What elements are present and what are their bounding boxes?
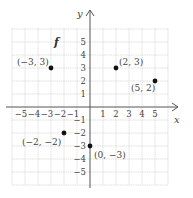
y-tick-label: −4 xyxy=(73,154,86,164)
x-tick-label: 2 xyxy=(113,109,118,119)
data-point xyxy=(62,131,67,136)
data-point xyxy=(49,66,54,71)
x-tick-labels: −5 −4 −3 −2 −1 1 2 3 4 5 xyxy=(15,109,158,119)
y-tick-label: −3 xyxy=(73,141,86,151)
point-label: (−3, 3) xyxy=(17,57,49,67)
function-label: f xyxy=(53,36,61,49)
x-tick-label: 1 xyxy=(100,109,105,119)
y-tick-label: −1 xyxy=(73,115,86,125)
point-label: (−2, −2) xyxy=(22,137,61,147)
y-tick-label: −5 xyxy=(73,167,86,177)
x-tick-label: 5 xyxy=(152,109,157,119)
y-tick-label: 4 xyxy=(81,50,86,60)
x-tick-label: 3 xyxy=(126,109,131,119)
y-tick-label: 3 xyxy=(81,63,86,73)
y-tick-label: 2 xyxy=(81,76,86,86)
y-tick-label: 5 xyxy=(81,37,86,47)
x-tick-label: −4 xyxy=(28,109,41,119)
y-tick-label: 1 xyxy=(81,89,86,99)
point-label: (2, 3) xyxy=(119,57,143,67)
data-point xyxy=(114,66,119,71)
x-tick-label: −3 xyxy=(41,109,54,119)
x-tick-label: −2 xyxy=(54,109,67,119)
x-axis-label: x xyxy=(174,114,180,125)
x-tick-label: −5 xyxy=(15,109,28,119)
point-label: (0, −3) xyxy=(94,150,126,160)
y-axis-label: y xyxy=(76,8,83,19)
data-point xyxy=(88,144,93,149)
x-tick-label: 4 xyxy=(139,109,144,119)
coordinate-plane: x y f −5 −4 −3 −2 −1 1 2 3 4 5 5 4 3 2 1… xyxy=(0,0,193,198)
point-label: (5, 2) xyxy=(131,83,155,93)
y-tick-label: −2 xyxy=(73,128,86,138)
